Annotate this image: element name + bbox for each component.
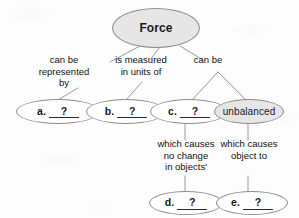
node-e-content: e. ?	[231, 196, 273, 209]
node-c-letter: c.	[168, 105, 177, 117]
node-unbalanced[interactable]: unbalanced	[214, 99, 284, 124]
node-e-letter: e.	[231, 196, 240, 208]
node-b-content: b. ?	[105, 105, 147, 118]
edge-canbe-to-c	[192, 72, 218, 100]
node-d[interactable]: d. ?	[149, 191, 223, 215]
node-b-blank[interactable]: ?	[117, 106, 147, 118]
concept-map-canvas: Force can be represented by is measured …	[0, 0, 299, 218]
node-a-letter: a.	[37, 105, 46, 117]
node-d-letter: d.	[165, 196, 174, 208]
node-e-blank[interactable]: ?	[243, 197, 273, 209]
edge-label-represented-by: can be represented by	[28, 54, 100, 89]
node-d-content: d. ?	[165, 196, 207, 209]
node-unbalanced-label: unbalanced	[223, 107, 276, 117]
edge-label-measured-in-units-of: is measured in units of	[105, 54, 177, 77]
node-a-blank[interactable]: ?	[49, 106, 79, 118]
node-d-blank[interactable]: ?	[177, 197, 207, 209]
edge-canbe-to-unbalanced	[218, 72, 246, 100]
node-force[interactable]: Force	[112, 8, 200, 48]
node-force-label: Force	[139, 22, 172, 34]
node-e[interactable]: e. ?	[216, 191, 288, 215]
node-c-blank[interactable]: ?	[180, 106, 210, 118]
edge-label-object-to: which causes object to	[212, 138, 286, 161]
node-a-content: a. ?	[37, 105, 79, 118]
node-c-content: c. ?	[168, 105, 210, 118]
edge-root-to-b-lower	[126, 82, 142, 100]
node-b-letter: b.	[105, 105, 114, 117]
edge-label-can-be: can be	[182, 54, 234, 66]
